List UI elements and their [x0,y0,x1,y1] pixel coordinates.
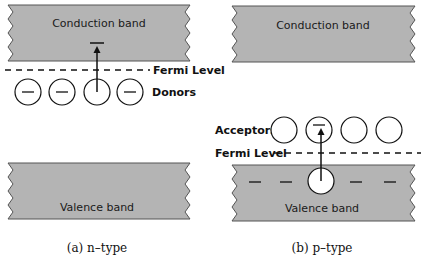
acceptor-circles [271,117,402,143]
conduction-band-p [232,6,415,62]
caption-n-type: (a) n–type [67,241,127,255]
conduction-band-label-n: Conduction band [52,17,146,30]
valence-band-label-p: Valence band [285,202,359,215]
fermi-level-label-n: Fermi Level [153,64,225,77]
acceptors-label: Acceptors [215,124,277,137]
donor-circles [15,79,143,105]
panel-n-type: Conduction band Fermi Level Donors Valen… [5,5,225,255]
donors-label: Donors [152,86,197,99]
band-diagram: Conduction band Fermi Level Donors Valen… [0,0,423,263]
conduction-band-label-p: Conduction band [276,19,370,32]
caption-p-type: (b) p–type [292,241,353,255]
acceptor-circle [376,117,402,143]
acceptor-circle-filled [306,117,332,143]
valence-band-label-n: Valence band [60,201,134,214]
panel-p-type: Conduction band Acceptors Fermi Level Va… [215,6,421,255]
acceptor-circle [271,117,297,143]
acceptor-circle [341,117,367,143]
